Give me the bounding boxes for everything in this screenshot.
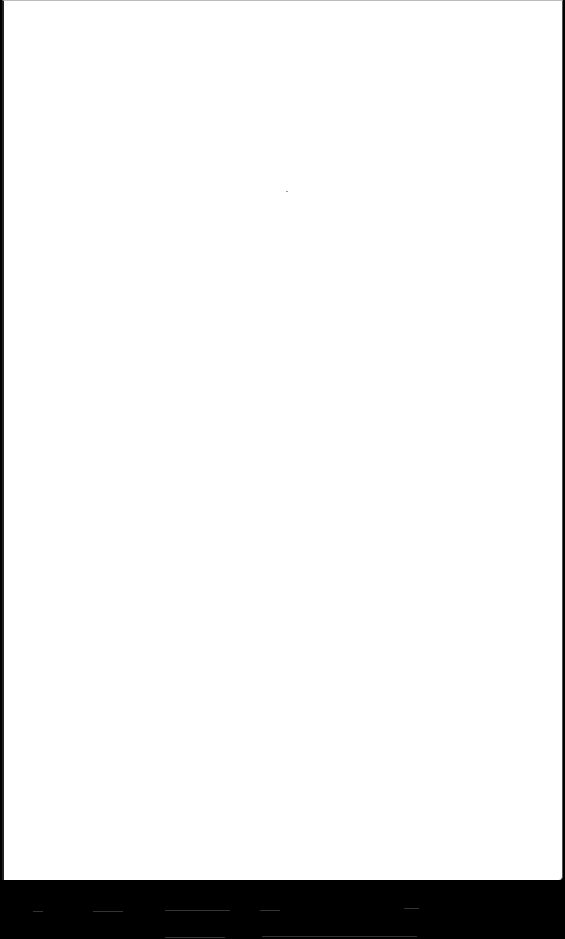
scan-artifact — [260, 910, 280, 911]
scan-artifact — [165, 937, 225, 938]
scan-artifact — [165, 910, 230, 911]
scan-artifact — [404, 908, 419, 909]
scan-artifact — [93, 911, 123, 912]
blank-document-page — [2, 0, 563, 880]
scan-artifact — [262, 936, 417, 937]
scan-speck — [286, 191, 288, 192]
scan-artifact — [33, 911, 43, 912]
